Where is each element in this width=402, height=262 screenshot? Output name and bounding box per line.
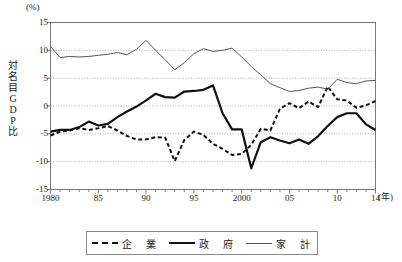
x-tick-label: 14 (371, 194, 380, 203)
legend-item-企業[interactable]: 企 業 (92, 236, 158, 251)
x-tick-label: 90 (142, 194, 151, 203)
x-tick-label: 85 (94, 194, 103, 203)
legend-item-家計[interactable]: 家 計 (246, 236, 312, 251)
legend-label: 政 府 (199, 236, 235, 251)
legend-swatch-icon (169, 242, 195, 244)
legend-label: 企 業 (122, 236, 158, 251)
chart-figure: (%) 対 名 目 G D P 比 (年) 151050-5-10-15 198… (0, 0, 402, 262)
legend-label: 家 計 (276, 236, 312, 251)
chart-legend: 企 業政 府家 計 (86, 231, 318, 255)
x-tick-label: 95 (189, 194, 198, 203)
legend-swatch-icon (246, 243, 272, 244)
x-tick-label: 05 (285, 194, 294, 203)
x-tick-label: 1980 (42, 194, 60, 203)
x-axis-tick-labels: 19808590952000051014 (0, 0, 402, 262)
legend-swatch-icon (92, 242, 118, 244)
x-tick-label: 10 (333, 194, 342, 203)
x-tick-label: 2000 (233, 194, 251, 203)
legend-item-政府[interactable]: 政 府 (169, 236, 235, 251)
